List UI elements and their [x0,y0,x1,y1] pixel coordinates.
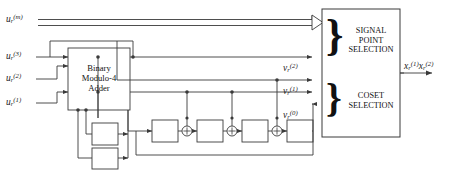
encoder-block-diagram: ur(m) ur(3) ur(2) ur(1) Binary Modulo-4 … [0,0,464,171]
signal-point-brace: } [326,14,343,58]
feedback-delay-box-2 [92,148,118,169]
coset-brace: } [326,78,342,118]
coset-selection-label: COSET SELECTION [344,91,398,110]
input-label-u-3: ur(3) [6,50,21,61]
signal-point-selection-label: SIGNAL POINT SELECTION [344,26,398,55]
bus-arrow-u-m [38,15,323,30]
feedback-delay-box-1 [92,123,118,145]
output-label: xr(1)xr(2) [404,60,433,71]
tap-label-v-1: vr(1) [283,85,298,96]
xor-gate-1 [182,126,192,136]
shift-register-box-4 [287,120,313,142]
adder-label: Binary Modulo-4 Adder [68,63,130,93]
shift-register-box-1 [152,120,178,142]
input-label-u-m: ur(m) [6,13,23,24]
shift-register-box-2 [197,120,223,142]
xor-gate-2 [227,126,237,136]
shift-register-box-3 [242,120,268,142]
tap-label-v-0: vr(0) [283,109,298,120]
tap-label-v-2: vr(2) [283,62,298,73]
xor-gate-3 [272,126,282,136]
input-label-u-2: ur(2) [6,72,21,83]
input-label-u-1: ur(1) [6,96,21,107]
